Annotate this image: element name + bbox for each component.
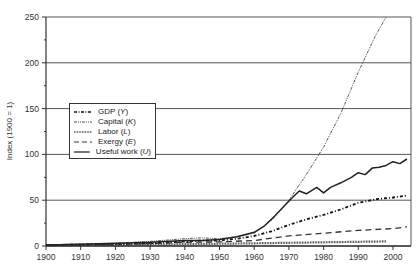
line-chart: 050100150200250 190019101920193019401950…	[0, 0, 420, 272]
x-axis-ticks: 1900191019201930194019501960197019801990…	[37, 246, 403, 262]
x-tick-label: 2000	[384, 252, 403, 262]
legend-item-gdp: GDP (Y)	[74, 107, 151, 117]
x-tick-label: 1910	[71, 252, 90, 262]
y-tick-label: 50	[30, 195, 40, 205]
y-axis-title: Index (1900 = 1)	[5, 101, 14, 160]
solid-line-icon	[74, 148, 90, 156]
dotted-line-icon	[74, 128, 92, 136]
y-tick-label: 0	[34, 241, 39, 251]
x-tick-label: 1960	[245, 252, 264, 262]
x-tick-label: 1990	[349, 252, 368, 262]
y-tick-label: 200	[25, 58, 39, 68]
x-tick-label: 1970	[279, 252, 298, 262]
series-exergy-e	[46, 227, 407, 245]
x-tick-label: 1950	[210, 252, 229, 262]
series-useful-work-u	[46, 159, 407, 245]
x-tick-label: 1940	[175, 252, 194, 262]
legend-item-exergy: Exergy (E)	[74, 137, 151, 147]
dash-dot-dot-line-icon	[74, 118, 92, 126]
legend-item-useful-work: Useful work (U)	[74, 147, 151, 157]
y-axis-ticks: 050100150200250	[25, 12, 46, 251]
x-tick-label: 1900	[37, 252, 56, 262]
y-tick-label: 250	[25, 12, 39, 22]
legend-item-capital: Capital (K)	[74, 117, 151, 127]
y-tick-label: 100	[25, 149, 39, 159]
y-tick-label: 150	[25, 104, 39, 114]
dashed-line-icon	[74, 138, 92, 146]
x-tick-label: 1930	[141, 252, 160, 262]
dash-dot-line-icon	[74, 108, 92, 116]
legend: GDP (Y) Capital (K) Labor (L) Exergy (E)…	[69, 103, 156, 159]
x-tick-label: 1920	[106, 252, 125, 262]
legend-item-labor: Labor (L)	[74, 127, 151, 137]
x-tick-label: 1980	[314, 252, 333, 262]
